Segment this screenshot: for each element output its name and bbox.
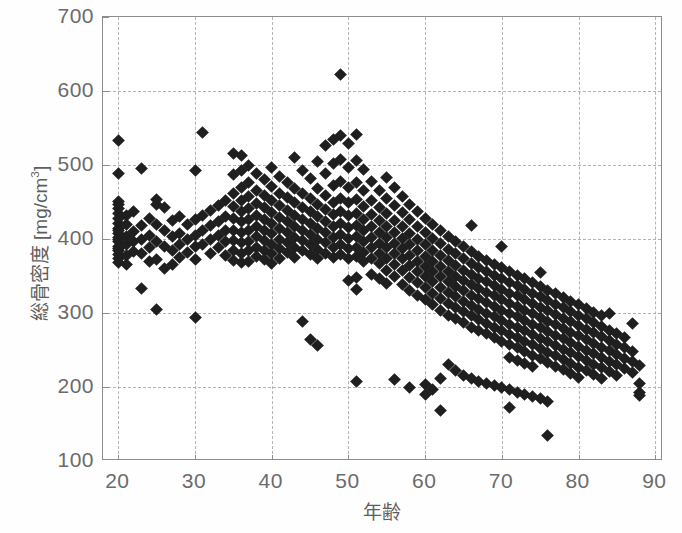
plot-area	[102, 16, 662, 460]
data-point	[150, 303, 163, 316]
data-point	[626, 317, 639, 330]
y-axis-title: 総骨密度 [mg/cm3]	[25, 124, 52, 364]
data-point	[112, 167, 125, 180]
x-axis-tick-label: 50	[317, 470, 377, 491]
x-axis-tick-label: 80	[548, 470, 608, 491]
data-point	[465, 219, 478, 232]
data-point	[288, 151, 301, 164]
x-axis-tick-label: 40	[241, 470, 301, 491]
data-point	[196, 126, 209, 139]
data-points-layer	[103, 17, 661, 459]
y-axis-tick-label: 700	[34, 5, 94, 26]
data-point	[311, 155, 324, 168]
x-axis-tick-label: 90	[624, 470, 682, 491]
data-point	[296, 315, 309, 328]
data-point	[135, 282, 148, 295]
data-point	[496, 240, 509, 253]
data-point	[135, 162, 148, 175]
data-point	[350, 283, 363, 296]
y-axis-tick-label: 600	[34, 79, 94, 100]
y-axis-title-close: ]	[30, 166, 51, 171]
x-axis-tick-labels: 2030405060708090	[102, 470, 662, 500]
data-point	[542, 429, 555, 442]
data-point	[342, 137, 355, 150]
y-axis-title-exponent: 3	[28, 171, 41, 178]
data-point	[319, 167, 332, 180]
y-axis-title-wrapper: 総骨密度 [mg/cm3]	[0, 80, 30, 380]
x-axis-tick-label: 60	[394, 470, 454, 491]
x-axis-title: 年齢	[102, 497, 662, 524]
data-point	[112, 134, 125, 147]
data-point	[357, 163, 370, 176]
data-point	[403, 381, 416, 394]
x-axis-tick-label: 20	[87, 470, 147, 491]
data-point	[434, 404, 447, 417]
data-point	[380, 171, 393, 184]
data-point	[189, 311, 202, 324]
x-axis-tick-label: 30	[164, 470, 224, 491]
y-axis-tick-label: 200	[34, 375, 94, 396]
data-point	[388, 373, 401, 386]
data-point	[304, 172, 317, 185]
scatter-chart-figure: 100200300400500600700 総骨密度 [mg/cm3] 2030…	[0, 0, 682, 533]
data-point	[534, 266, 547, 279]
y-axis-tick-label: 100	[34, 449, 94, 470]
data-point	[350, 128, 363, 141]
data-point	[334, 68, 347, 81]
y-axis-title-base: 総骨密度 [mg/cm	[30, 178, 51, 322]
data-point	[189, 165, 202, 178]
data-point	[434, 372, 447, 385]
data-point	[350, 375, 363, 388]
data-point	[503, 401, 516, 414]
x-axis-tick-label: 70	[471, 470, 531, 491]
data-point	[388, 181, 401, 194]
